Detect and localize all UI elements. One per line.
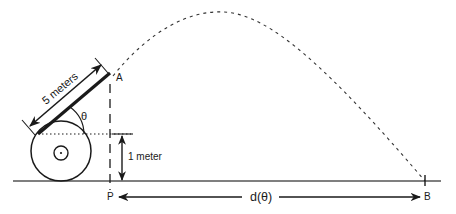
point-b-label: B [424,191,431,202]
height-label: 1 meter [128,151,163,162]
point-a-label: A [116,72,123,83]
point-p-label: P [107,191,114,202]
angle-label: θ [81,110,87,122]
barrel-dimension-tick-lower [22,120,35,135]
cannon-wheel [31,121,91,181]
wheel-axle [60,152,62,154]
barrel-dimension-tick-upper [95,58,108,73]
distance-label: d(θ) [250,190,272,204]
cannon-diagram: θ 5 meters A 1 meter P d(θ) B [0,0,456,214]
